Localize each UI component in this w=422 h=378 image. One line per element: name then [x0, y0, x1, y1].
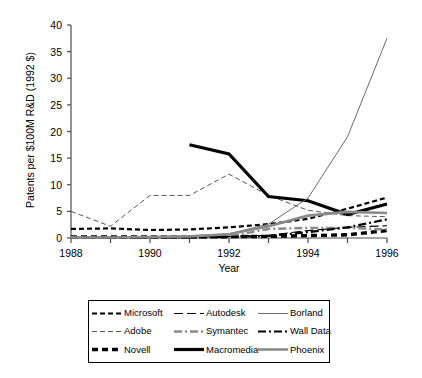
legend-label: Adobe	[124, 326, 151, 336]
series-line-phoenix	[71, 212, 387, 238]
legend-item-phoenix[interactable]: Phoenix	[255, 344, 331, 355]
legend-swatch-macromedia-icon	[174, 344, 204, 355]
series-line-adobe	[71, 174, 387, 226]
legend-swatch-symantec-icon	[174, 326, 204, 337]
legend-label: Wall Data	[290, 326, 331, 336]
line-chart: Patents per $100M R&D (1992 $) Year 0510…	[0, 0, 422, 295]
legend-item-borland[interactable]: Borland	[255, 308, 331, 319]
chart-page: Patents per $100M R&D (1992 $) Year 0510…	[0, 0, 422, 378]
legend-swatch-microsoft-icon	[92, 308, 122, 319]
legend-swatch-adobe-icon	[92, 326, 122, 337]
legend-swatch-wall-data-icon	[258, 326, 288, 337]
legend-label: Autodesk	[206, 308, 246, 318]
legend-label: Novell	[124, 345, 150, 355]
legend-item-adobe[interactable]: Adobe	[89, 326, 171, 337]
legend-item-macromedia[interactable]: Macromedia	[171, 344, 255, 355]
plot-canvas	[0, 0, 422, 295]
legend-label: Macromedia	[206, 345, 258, 355]
legend-label: Microsoft	[124, 308, 163, 318]
legend-swatch-phoenix-icon	[258, 344, 288, 355]
legend-label: Borland	[290, 308, 323, 318]
legend-swatch-autodesk-icon	[174, 308, 204, 319]
legend-label: Symantec	[206, 326, 248, 336]
legend-item-autodesk[interactable]: Autodesk	[171, 308, 255, 319]
legend-item-novell[interactable]: Novell	[89, 344, 171, 355]
chart-legend: MicrosoftAutodeskBorlandAdobeSymantecWal…	[88, 300, 330, 363]
legend-swatch-borland-icon	[258, 308, 288, 319]
legend-label: Phoenix	[290, 345, 324, 355]
legend-swatch-novell-icon	[92, 344, 122, 355]
legend-item-symantec[interactable]: Symantec	[171, 326, 255, 337]
legend-item-microsoft[interactable]: Microsoft	[89, 308, 171, 319]
series-line-macromedia	[190, 145, 388, 215]
series-line-borland	[71, 38, 387, 237]
legend-item-wall-data[interactable]: Wall Data	[255, 326, 331, 337]
series-line-autodesk	[71, 226, 387, 238]
